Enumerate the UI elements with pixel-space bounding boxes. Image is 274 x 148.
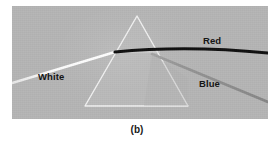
prism-dispersion-figure: White Red Blue (b)	[0, 0, 274, 148]
prism-diagram-svg	[12, 6, 268, 119]
blue-ray-label: Blue	[199, 79, 220, 89]
red-ray-label: Red	[203, 36, 221, 46]
figure-caption: (b)	[0, 124, 274, 135]
white-ray-label: White	[38, 72, 64, 82]
prism-photo-panel	[12, 6, 268, 119]
